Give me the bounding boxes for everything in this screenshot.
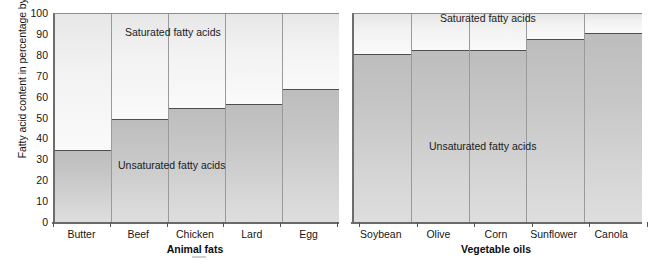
stacked-bar[interactable] <box>112 14 169 223</box>
x-axis-tick-mark <box>167 222 168 227</box>
scan-artifact-mark <box>192 256 206 258</box>
stacked-bar[interactable] <box>527 14 585 223</box>
bar-segment-unsaturated[interactable] <box>470 50 527 223</box>
bar-segment-unsaturated[interactable] <box>354 54 411 223</box>
bar-segment-saturated[interactable] <box>112 14 168 119</box>
bar-segment-unsaturated[interactable] <box>527 39 584 223</box>
stacked-bar[interactable] <box>169 14 226 223</box>
bar-segment-saturated[interactable] <box>226 14 282 104</box>
bar-segment-saturated[interactable] <box>283 14 339 89</box>
bar-segment-saturated[interactable] <box>55 14 111 150</box>
bar-segment-unsaturated[interactable] <box>412 50 469 223</box>
x-axis-tick-mark <box>417 222 418 227</box>
x-axis-category-label: Canola <box>582 228 640 240</box>
stacked-bar[interactable] <box>226 14 283 223</box>
bar-segment-saturated[interactable] <box>169 14 225 108</box>
x-axis-category-label: Sunflower <box>525 228 583 240</box>
x-axis-category-label: Butter <box>53 228 110 240</box>
plot-area-vegetable-oils <box>352 13 642 223</box>
bar-segment-saturated[interactable] <box>354 14 411 54</box>
x-axis-tick-mark <box>53 222 54 227</box>
x-axis-category-label: Chicken <box>167 228 224 240</box>
x-axis-category-label: Corn <box>467 228 525 240</box>
x-axis-tick-mark <box>337 222 338 227</box>
x-axis-tick-mark <box>532 222 533 227</box>
bar-segment-unsaturated[interactable] <box>283 89 339 223</box>
x-axis-category-label: Beef <box>110 228 167 240</box>
x-axis-category-label: Soybean <box>352 228 410 240</box>
panel-animal-fats: ButterBeefChickenLardEgg Animal fats Sat… <box>0 0 345 264</box>
stacked-bar[interactable] <box>470 14 528 223</box>
x-axis-tick-mark <box>280 222 281 227</box>
x-axis-tick-mark <box>110 222 111 227</box>
bar-segment-unsaturated[interactable] <box>585 33 642 223</box>
bar-segment-unsaturated[interactable] <box>112 119 168 224</box>
stacked-bar[interactable] <box>354 14 412 223</box>
x-axis-title-animal: Animal fats <box>53 243 337 255</box>
x-axis-category-label: Egg <box>280 228 337 240</box>
bar-segment-unsaturated[interactable] <box>169 108 225 223</box>
stacked-bar-chart-figure: Fatty acid content in percentage by weig… <box>0 0 648 264</box>
bar-segment-saturated[interactable] <box>412 14 469 50</box>
stacked-bar[interactable] <box>283 14 339 223</box>
bar-segment-saturated[interactable] <box>585 14 642 33</box>
bar-segment-unsaturated[interactable] <box>55 150 111 223</box>
x-axis-tick-mark <box>589 222 590 227</box>
x-axis-tick-mark <box>223 222 224 227</box>
x-axis-tick-mark <box>359 222 360 227</box>
x-axis-tick-mark <box>474 222 475 227</box>
bar-segment-saturated[interactable] <box>527 14 584 39</box>
stacked-bar[interactable] <box>55 14 112 223</box>
bar-segment-saturated[interactable] <box>470 14 527 50</box>
plot-area-animal-fats <box>53 13 339 223</box>
x-axis-labels-vegetable: SoybeanOliveCornSunflowerCanola <box>352 228 640 240</box>
x-axis-category-label: Lard <box>223 228 280 240</box>
bar-segment-unsaturated[interactable] <box>226 104 282 223</box>
stacked-bar[interactable] <box>412 14 470 223</box>
x-axis-title-vegetable: Vegetable oils <box>352 243 640 255</box>
x-axis-labels-animal: ButterBeefChickenLardEgg <box>53 228 337 240</box>
stacked-bar[interactable] <box>585 14 642 223</box>
x-axis-category-label: Olive <box>410 228 468 240</box>
